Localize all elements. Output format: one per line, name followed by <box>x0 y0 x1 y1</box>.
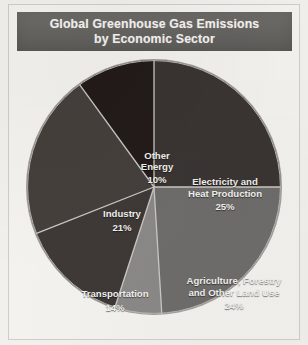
chart-title-banner: Global Greenhouse Gas Emissions by Econo… <box>17 12 292 51</box>
slice-label-agriculture-line-2: and Other Land Use <box>165 287 303 299</box>
slice-label-electricity: Electricity and Heat Production 25% <box>173 176 277 213</box>
slice-value-industry: 21% <box>81 222 163 234</box>
slice-value-agriculture: 24% <box>165 300 303 312</box>
pie-chart: Electricity and Heat Production 25% Agri… <box>23 58 285 326</box>
chart-title-line-1: Global Greenhouse Gas Emissions <box>50 17 260 32</box>
slice-label-agriculture-line-1: Agriculture, Forestry <box>165 275 303 287</box>
chart-title-line-2: by Economic Sector <box>94 32 215 47</box>
slice-label-transportation-line-1: Transportation <box>63 288 167 300</box>
slice-label-electricity-line-2: Heat Production <box>173 188 277 200</box>
slice-label-electricity-line-1: Electricity and <box>173 176 277 188</box>
slice-label-other-energy: Other Energy 10% <box>126 150 188 186</box>
slice-label-other-energy-line-1: Other <box>126 150 188 161</box>
slice-value-electricity: 25% <box>173 201 277 213</box>
slice-label-agriculture: Agriculture, Forestry and Other Land Use… <box>165 275 303 312</box>
slice-label-transportation: Transportation 14% <box>63 288 167 313</box>
slice-label-industry-line-1: Industry <box>81 208 163 220</box>
slice-value-transportation: 14% <box>63 302 167 314</box>
figure-panel: Global Greenhouse Gas Emissions by Econo… <box>8 4 300 340</box>
slice-label-industry: Industry 21% <box>81 208 163 233</box>
slice-value-other-energy: 10% <box>126 174 188 186</box>
slice-label-other-energy-line-2: Energy <box>126 161 188 172</box>
